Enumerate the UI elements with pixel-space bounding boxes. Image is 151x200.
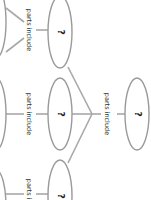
- grandchild-node-3: [0, 170, 6, 200]
- child-node-1-label: ?: [56, 29, 66, 34]
- child-3-link-label: parts include: [25, 179, 33, 200]
- connector-c1-g2: [6, 38, 24, 52]
- connector-c1-g1: [6, 8, 24, 22]
- root-node-label: ?: [133, 111, 143, 116]
- grandchild-node-1: [0, 0, 6, 58]
- child-node-3-label: ?: [56, 193, 66, 198]
- concept-map: ? parts include ? parts include ? parts …: [0, 0, 151, 200]
- root-link-label: parts include: [103, 93, 111, 135]
- grandchild-node-2: [0, 78, 6, 150]
- child-2-link-label: parts include: [25, 93, 33, 135]
- child-node-2-label: ?: [56, 111, 66, 116]
- child-1-link-label: parts include: [25, 9, 33, 51]
